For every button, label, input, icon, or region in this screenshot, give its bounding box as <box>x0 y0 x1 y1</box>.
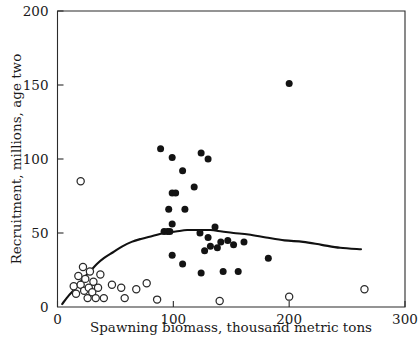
data-point-open <box>79 263 86 270</box>
data-point-filled <box>201 247 208 254</box>
y-axis-tick-labels: 050100150200 <box>23 3 49 315</box>
plot-svg: 0100200300 050100150200 Spawning biomass… <box>0 0 418 339</box>
data-point-filled <box>169 154 176 161</box>
data-point-open <box>72 290 79 297</box>
data-point-open <box>361 286 368 293</box>
data-point-open <box>108 281 115 288</box>
x-tick-label: 0 <box>53 311 62 327</box>
data-point-filled <box>196 230 203 237</box>
fit-curve-group <box>62 230 361 304</box>
data-point-filled <box>230 241 237 248</box>
x-tick-label: 300 <box>392 311 418 327</box>
data-point-filled <box>165 206 172 213</box>
fit-curve <box>62 230 361 304</box>
plot-frame <box>58 11 406 307</box>
data-point-filled <box>198 269 205 276</box>
y-tick-label: 50 <box>31 225 48 241</box>
data-point-filled <box>172 190 179 197</box>
y-tick-label: 150 <box>23 77 49 93</box>
data-point-open <box>286 293 293 300</box>
data-point-filled <box>205 156 212 163</box>
data-point-open <box>216 297 223 304</box>
data-point-filled <box>214 244 221 251</box>
data-point-open <box>154 296 161 303</box>
data-point-filled <box>169 221 176 228</box>
data-point-open <box>94 284 101 291</box>
data-point-filled <box>217 238 224 245</box>
data-point-filled <box>286 80 293 87</box>
data-point-filled <box>198 150 205 157</box>
data-point-open <box>86 268 93 275</box>
data-point-filled <box>157 145 164 152</box>
y-tick-label: 100 <box>23 151 49 167</box>
filled-circle-data-points <box>157 80 293 276</box>
data-point-open <box>75 272 82 279</box>
data-point-filled <box>220 268 227 275</box>
data-point-filled <box>224 237 231 244</box>
data-point-filled <box>212 224 219 231</box>
data-point-open <box>97 271 104 278</box>
y-axis-title: Recruitment, millions, age two <box>8 54 24 265</box>
data-point-open <box>118 284 125 291</box>
stock-recruitment-scatter-chart: 0100200300 050100150200 Spawning biomass… <box>0 0 418 339</box>
data-point-filled <box>205 234 212 241</box>
data-point-open <box>92 295 99 302</box>
data-point-filled <box>166 228 173 235</box>
axis-frame <box>58 11 406 307</box>
data-point-filled <box>181 206 188 213</box>
data-point-open <box>121 295 128 302</box>
data-point-open <box>77 178 84 185</box>
data-point-filled <box>179 167 186 174</box>
data-point-open <box>133 286 140 293</box>
data-point-filled <box>169 252 176 259</box>
data-point-filled <box>265 255 272 262</box>
data-point-open <box>143 280 150 287</box>
y-tick-label: 0 <box>40 299 49 315</box>
data-point-filled <box>207 243 214 250</box>
x-axis-ticks <box>58 301 406 307</box>
data-point-filled <box>179 261 186 268</box>
y-tick-label: 200 <box>23 3 49 19</box>
data-point-open <box>70 283 77 290</box>
data-point-filled <box>235 268 242 275</box>
data-point-open <box>100 295 107 302</box>
x-axis-title: Spawning biomass, thousand metric tons <box>90 319 372 335</box>
data-point-open <box>82 275 89 282</box>
data-point-filled <box>191 184 198 191</box>
y-axis-ticks <box>58 11 64 233</box>
data-point-filled <box>240 238 247 245</box>
